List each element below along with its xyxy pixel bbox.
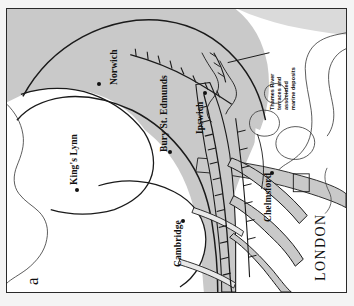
map-frame: Norwich King's Lynn Bury St. Edmunds Ips… xyxy=(6,8,347,293)
city-marker-bury-st-edmunds xyxy=(168,150,172,154)
map-canvas xyxy=(7,9,346,292)
city-marker-norwich xyxy=(97,82,101,86)
city-marker-cambridge xyxy=(181,219,185,223)
city-marker-kings-lynn xyxy=(75,188,79,192)
city-marker-ipswich xyxy=(203,91,207,95)
city-marker-chelmsford xyxy=(270,171,274,175)
figure-root: Norwich King's Lynn Bury St. Edmunds Ips… xyxy=(0,0,354,306)
